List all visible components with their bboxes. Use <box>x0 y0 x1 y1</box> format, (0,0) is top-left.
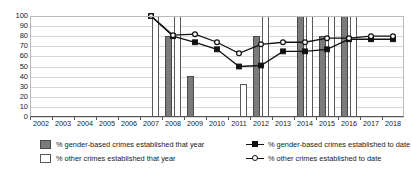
y-axis-tick-label: 30 <box>2 83 28 91</box>
filled-square-icon <box>252 141 258 147</box>
x-axis-tick-mark <box>250 117 251 120</box>
x-axis-tick-label: 2014 <box>297 120 313 128</box>
y-axis-tick-label: 50 <box>2 63 28 71</box>
legend-item-gender-line: % gender-based crimes established to dat… <box>246 137 410 151</box>
x-axis-tick-mark <box>140 117 141 120</box>
x-axis-tick-mark <box>74 117 75 120</box>
x-axis-tick-mark <box>30 117 31 120</box>
x-axis-tick-mark <box>338 117 339 120</box>
x-axis-tick-label: 2010 <box>209 120 225 128</box>
y-axis-tick-label: 60 <box>2 52 28 60</box>
legend-swatch-other-line <box>246 154 264 163</box>
x-axis-tick-label: 2017 <box>363 120 379 128</box>
x-axis-tick-label: 2003 <box>55 120 71 128</box>
x-axis-tick-mark <box>52 117 53 120</box>
x-axis-tick-label: 2008 <box>165 120 181 128</box>
x-axis-tick-mark <box>96 117 97 120</box>
y-axis-tick-label: 0 <box>2 113 28 121</box>
y-axis-tick-label: 80 <box>2 32 28 40</box>
gridline <box>30 117 404 118</box>
legend-swatch-gender-bar <box>40 140 51 149</box>
x-axis-tick-label: 2002 <box>33 120 49 128</box>
y-axis-tick-label: 100 <box>2 12 28 20</box>
x-axis-tick-mark <box>382 117 383 120</box>
chart-legend: % gender-based crimes established that y… <box>40 136 380 172</box>
legend-swatch-gender-line <box>246 140 264 149</box>
x-axis-tick-mark <box>316 117 317 120</box>
x-axis-tick-label: 2015 <box>319 120 335 128</box>
x-axis-tick-label: 2009 <box>187 120 203 128</box>
x-axis-tick-mark <box>228 117 229 120</box>
y-axis-tick-label: 40 <box>2 73 28 81</box>
x-axis-tick-mark <box>184 117 185 120</box>
x-axis-tick-label: 2012 <box>253 120 269 128</box>
x-axis-tick-label: 2018 <box>385 120 401 128</box>
x-axis-tick-mark <box>118 117 119 120</box>
chart-container: 1009080706050403020100 20022003200420052… <box>0 0 412 176</box>
x-axis-tick-label: 2005 <box>99 120 115 128</box>
legend-item-other-line: % other crimes established to date <box>246 151 381 165</box>
legend-item-gender-bar: % gender-based crimes established that y… <box>40 137 204 151</box>
x-axis-tick-label: 2016 <box>341 120 357 128</box>
legend-swatch-other-bar <box>40 154 51 163</box>
x-axis-tick-mark <box>360 117 361 120</box>
legend-label: % other crimes established that year <box>56 154 176 163</box>
legend-label: % other crimes established to date <box>268 154 381 163</box>
plot-frame <box>30 16 404 117</box>
y-axis-tick-label: 10 <box>2 103 28 111</box>
legend-label: % gender-based crimes established to dat… <box>268 140 410 149</box>
y-axis-tick-label: 90 <box>2 22 28 30</box>
y-axis-tick-label: 70 <box>2 42 28 50</box>
x-axis-tick-mark <box>162 117 163 120</box>
x-axis-tick-mark <box>294 117 295 120</box>
plot-area <box>30 16 404 117</box>
x-axis-tick-label: 2004 <box>77 120 93 128</box>
legend-label: % gender-based crimes established that y… <box>56 140 204 149</box>
x-axis-tick-mark <box>206 117 207 120</box>
x-axis-tick-label: 2007 <box>143 120 159 128</box>
x-axis-tick-label: 2011 <box>231 120 246 128</box>
legend-item-other-bar: % other crimes established that year <box>40 151 176 165</box>
open-circle-icon <box>252 155 258 161</box>
x-axis-tick-label: 2006 <box>121 120 137 128</box>
x-axis-tick-label: 2013 <box>275 120 291 128</box>
x-axis-tick-mark <box>272 117 273 120</box>
y-axis-tick-label: 20 <box>2 93 28 101</box>
